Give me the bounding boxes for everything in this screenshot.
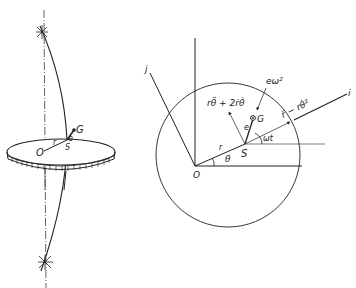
label-e-left: e xyxy=(68,134,73,143)
label-centripetal: eω² xyxy=(266,76,283,86)
theta-arc xyxy=(212,158,214,166)
label-theta: θ xyxy=(225,154,231,164)
label-tangential: rθ̈ + 2ṙθ̇ xyxy=(207,97,245,108)
tangential-arrow xyxy=(229,112,245,144)
label-i: i xyxy=(348,88,351,98)
label-radial: r̈ − rθ̇² xyxy=(279,97,311,120)
label-O-left: O xyxy=(36,147,44,158)
label-O-right: O xyxy=(193,170,200,180)
label-G-right: G xyxy=(257,114,264,124)
right-panel: j i O r θ S G e ωt rθ̈ + 2ṙθ̇ r̈ − rθ̇² … xyxy=(143,38,351,227)
label-omega-t: ωt xyxy=(263,134,274,143)
label-e-right: e xyxy=(244,123,249,132)
diagram-canvas: O r S e G j xyxy=(0,0,356,288)
label-S-left: S xyxy=(65,143,70,152)
left-panel: O r S e G xyxy=(7,10,115,288)
label-j: j xyxy=(143,64,148,74)
label-r-right: r xyxy=(219,143,223,152)
label-G-left: G xyxy=(76,124,84,135)
label-S-right: S xyxy=(241,148,248,159)
j-axis xyxy=(150,73,195,166)
